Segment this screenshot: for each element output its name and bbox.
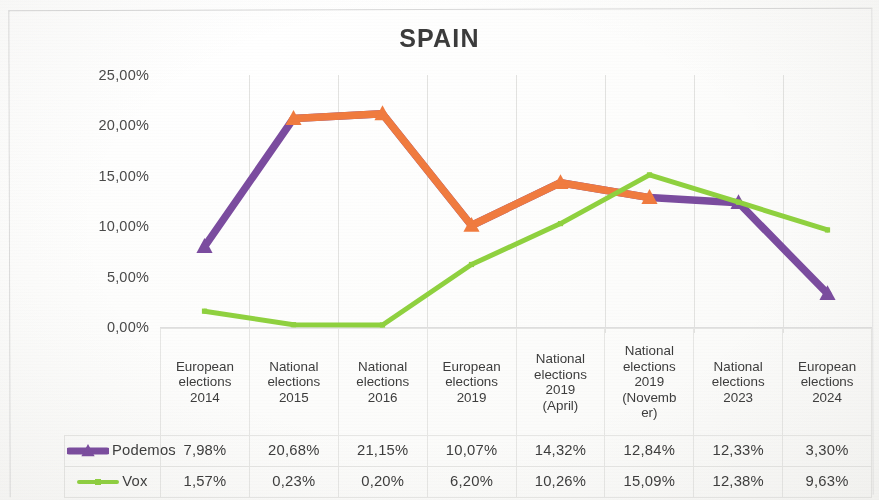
table-cell-value: 1,57% — [161, 467, 250, 498]
table-cell-value: 0,23% — [249, 467, 338, 498]
table-cell-value: 6,20% — [427, 467, 516, 498]
y-axis-tick-label: 10,00% — [99, 218, 149, 234]
table-cell-value: 3,30% — [783, 436, 872, 467]
column-header: Nationalelections2015 — [249, 329, 338, 436]
table-cell-value: 15,09% — [605, 467, 694, 498]
legend-label: Podemos — [112, 442, 176, 458]
table-row: Podemos7,98%20,68%21,15%10,07%14,32%12,8… — [65, 436, 872, 467]
y-axis-tick-label: 25,00% — [99, 67, 149, 83]
data-table: Europeanelections2014Nationalelections20… — [64, 328, 872, 498]
column-header: Europeanelections2024 — [783, 329, 872, 436]
series-vox — [202, 172, 830, 327]
series-lines — [160, 75, 872, 327]
column-header: Europeanelections2019 — [427, 329, 516, 436]
table-cell-value: 12,38% — [694, 467, 783, 498]
table-cell-value: 12,33% — [694, 436, 783, 467]
table-corner-cell — [65, 329, 161, 436]
table-cell-value: 12,84% — [605, 436, 694, 467]
column-header: Nationalelections2023 — [694, 329, 783, 436]
legend-item-vox[interactable]: Vox — [65, 467, 161, 498]
column-header: Nationalelections2019(November) — [605, 329, 694, 436]
table-header-row: Europeanelections2014Nationalelections20… — [65, 329, 872, 436]
table-cell-value: 10,26% — [516, 467, 605, 498]
table-cell-value: 21,15% — [338, 436, 427, 467]
legend-swatch-triangle-icon — [67, 443, 109, 459]
table-cell-value: 14,32% — [516, 436, 605, 467]
legend-label: Vox — [122, 473, 147, 489]
table-row: Vox1,57%0,23%0,20%6,20%10,26%15,09%12,38… — [65, 467, 872, 498]
column-header: Nationalelections2019(April) — [516, 329, 605, 436]
chart-page: SPAIN 0,00%5,00%10,00%15,00%20,00%25,00%… — [0, 0, 879, 500]
column-header: Nationalelections2016 — [338, 329, 427, 436]
column-header: Europeanelections2014 — [161, 329, 250, 436]
y-axis-tick-label: 20,00% — [99, 117, 149, 133]
chart-title: SPAIN — [0, 24, 879, 53]
table-cell-value: 20,68% — [249, 436, 338, 467]
y-axis-tick-label: 15,00% — [99, 168, 149, 184]
table-cell-value: 9,63% — [783, 467, 872, 498]
y-axis-tick-label: 5,00% — [107, 269, 149, 285]
table-cell-value: 10,07% — [427, 436, 516, 467]
legend-item-podemos[interactable]: Podemos — [65, 436, 161, 467]
table-cell-value: 0,20% — [338, 467, 427, 498]
legend-swatch-square-icon — [77, 474, 119, 490]
plot-area: 0,00%5,00%10,00%15,00%20,00%25,00% — [160, 75, 872, 327]
data-table-wrapper: Europeanelections2014Nationalelections20… — [64, 328, 872, 496]
